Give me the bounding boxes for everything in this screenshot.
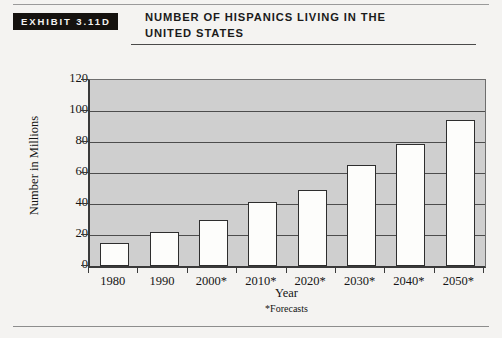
x-axis-tick-mark [236, 267, 237, 273]
y-axis-tick-labels: 020406080100120 [38, 58, 88, 268]
exhibit-title-line-1: Number of Hispanics Living in the [145, 10, 475, 26]
bar [150, 232, 179, 266]
plot-area [88, 79, 486, 268]
y-axis-tick-mark [81, 203, 88, 204]
exhibit-title-line-2: United States [145, 26, 475, 42]
y-axis-tick-mark [81, 172, 88, 173]
footer-divider [13, 326, 489, 327]
y-axis-tick-label: 0 [50, 258, 88, 270]
bar [347, 165, 376, 266]
x-axis-tick-mark [187, 267, 188, 273]
header-top-divider [13, 4, 489, 5]
y-axis-tick-mark [81, 79, 88, 80]
forecast-footnote: *Forecasts [88, 303, 485, 314]
y-axis-tick-mark [81, 110, 88, 111]
x-axis-title: Year [88, 286, 485, 301]
y-axis-tick-label: 60 [50, 165, 88, 177]
bar [248, 202, 277, 266]
bar-chart: Number in Millions 020406080100120 19801… [0, 58, 502, 308]
bar [396, 144, 425, 266]
x-axis-tick-mark [137, 267, 138, 273]
bar [199, 220, 228, 267]
x-axis-tick-mark [335, 267, 336, 273]
y-axis-tick-mark [81, 265, 88, 266]
x-axis-tick-mark [434, 267, 435, 273]
bar-series [90, 80, 485, 266]
exhibit-title: Number of Hispanics Living in the United… [145, 10, 475, 41]
y-axis-tick-label: 120 [50, 72, 88, 84]
x-axis-tick-mark [88, 267, 89, 273]
exhibit-page: EXHIBIT 3.11D Number of Hispanics Living… [0, 0, 502, 338]
x-axis-tick-mark [483, 267, 484, 273]
y-axis-tick-label: 80 [50, 134, 88, 146]
bar [298, 190, 327, 266]
exhibit-number-badge: EXHIBIT 3.11D [13, 13, 118, 30]
y-axis-tick-label: 100 [50, 103, 88, 115]
y-axis-tick-label: 20 [50, 227, 88, 239]
x-axis-tick-mark [384, 267, 385, 273]
y-axis-tick-mark [81, 141, 88, 142]
y-axis-tick-mark [81, 234, 88, 235]
y-axis-tick-label: 40 [50, 196, 88, 208]
title-underline-divider [131, 44, 476, 45]
x-axis-tick-mark [286, 267, 287, 273]
exhibit-header: EXHIBIT 3.11D Number of Hispanics Living… [13, 10, 489, 56]
bar [100, 243, 129, 266]
bar [446, 120, 475, 266]
